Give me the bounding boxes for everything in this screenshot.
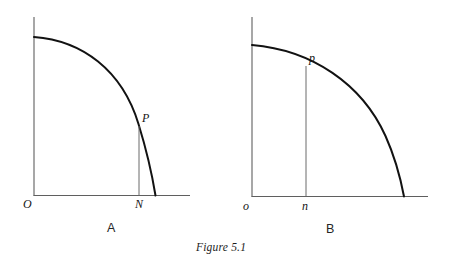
panel-a-foot-label: N	[135, 198, 143, 210]
figure-container: O N P A o n p B Figure 5.1	[0, 0, 450, 266]
panel-b-point-label: p	[309, 52, 315, 64]
panel-a-curve	[34, 37, 156, 196]
panel-b-origin-label: o	[243, 200, 249, 212]
panel-b-curve	[252, 45, 404, 197]
panel-b-label: B	[326, 223, 334, 236]
panel-b-graphics	[251, 17, 428, 197]
figure-graphics	[0, 0, 450, 266]
panel-a-label: A	[107, 222, 115, 235]
figure-caption: Figure 5.1	[196, 242, 246, 254]
panel-a-origin-label: O	[23, 198, 32, 210]
panel-a-point-label: P	[142, 112, 149, 124]
panel-b-foot-label: n	[302, 200, 308, 212]
panel-a-graphics	[33, 17, 190, 196]
